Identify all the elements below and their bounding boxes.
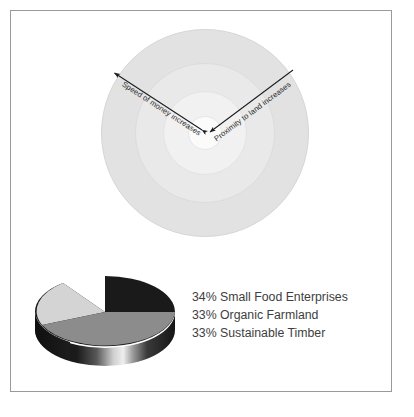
- arrow-label-proximity-to-land: Proximity to land increases: [212, 80, 292, 143]
- legend-item-organic-farmland: 33% Organic Farmland: [192, 306, 382, 324]
- legend-item-sustainable-timber: 33% Sustainable Timber: [192, 324, 382, 342]
- pie-chart-legend: 34% Small Food Enterprises 33% Organic F…: [192, 288, 382, 343]
- pie-chart-svg: [30, 268, 180, 368]
- arrow-label-speed-of-money: Speed of money increases: [120, 80, 202, 138]
- pie-top-face: [35, 276, 175, 346]
- page-root: Speed of money increases Proximity to la…: [0, 0, 414, 417]
- arrow-speed-of-money: Speed of money increases: [115, 73, 203, 138]
- pie-chart: [30, 268, 180, 368]
- rings-arrows-overlay: Speed of money increases Proximity to la…: [101, 29, 309, 237]
- concentric-rings-diagram: Speed of money increases Proximity to la…: [101, 29, 309, 237]
- arrow-proximity-to-land: Proximity to land increases: [210, 70, 293, 143]
- legend-item-small-food-enterprises: 34% Small Food Enterprises: [192, 288, 382, 306]
